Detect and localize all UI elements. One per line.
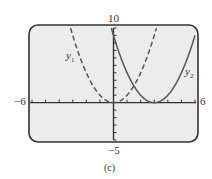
ymin-label: −5 [108,145,120,156]
figure-caption: (c) [104,163,115,173]
xmax-label: 6 [200,96,206,107]
y2-label: y2 [185,66,193,80]
ymax-label: 10 [108,13,119,24]
xmin-label: −6 [14,96,26,107]
y1-label: y1 [66,50,74,64]
graphing-calculator-screen [0,0,212,179]
